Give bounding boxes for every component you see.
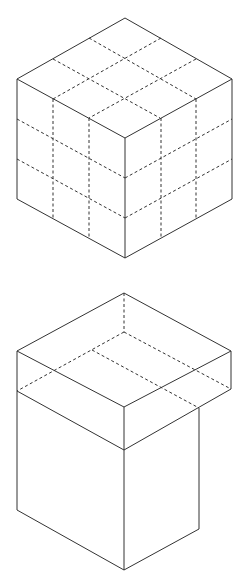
box-lid-figure [17, 293, 231, 570]
cube-right-grid [125, 99, 232, 238]
lid-hidden-back-left [17, 332, 124, 391]
lid-bottom-left-edge [17, 391, 124, 450]
body-bottom-left-edge [17, 510, 124, 570]
cube-figure [17, 18, 232, 258]
diagram-canvas [0, 0, 246, 588]
body-hidden-top-edge [92, 350, 199, 408]
cube-top-grid [53, 38, 196, 118]
body-bottom-right-edge [124, 529, 199, 570]
lid-hidden-back-right [124, 332, 231, 389]
cube-left-grid [17, 99, 125, 238]
cube-top-front-edges [17, 79, 232, 138]
